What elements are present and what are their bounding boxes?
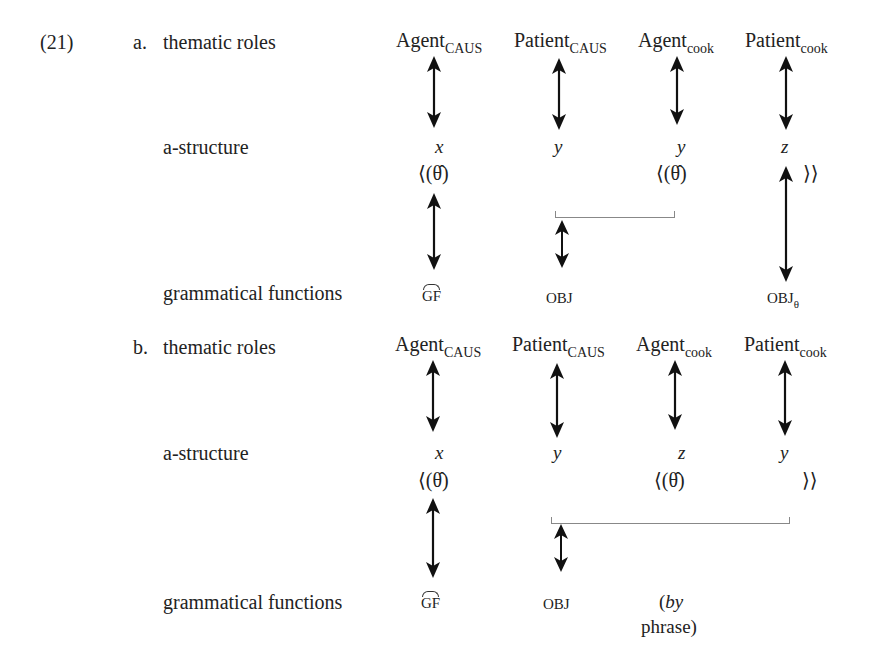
part-b-var-4: y [780, 443, 788, 462]
part-b-letter: b. [133, 337, 148, 357]
part-b-role-patient-caus: PatientCAUS [512, 334, 605, 360]
double-arrow-icon [775, 360, 795, 436]
part-a-var-3: y [677, 137, 685, 156]
double-arrow-icon [552, 524, 570, 572]
part-a-obj-theta: OBJθ [767, 291, 799, 310]
part-a-linking-bracket [555, 211, 675, 218]
part-a-theta-close: ⟩⟩ [803, 163, 819, 183]
part-b-theta-open-1: ⟨(θ̂) [418, 470, 449, 490]
double-arrow-icon [423, 360, 443, 432]
part-a-theta-open-2: ⟨(θ̂) [656, 163, 687, 183]
part-a-role-agent-caus: AgentCAUS [396, 30, 482, 56]
part-b-by-phrase-line-1: (by [659, 592, 683, 611]
part-b-linking-bracket [551, 517, 790, 524]
part-b-obj: OBJ [543, 597, 570, 612]
part-b-label-thematic-roles: thematic roles [163, 337, 276, 357]
double-arrow-icon [667, 56, 687, 125]
example-number: (21) [40, 32, 73, 52]
part-a-letter: a. [133, 32, 147, 52]
double-arrow-icon [549, 58, 569, 130]
part-b-theta-open-2: ⟨(θ̂) [654, 470, 685, 490]
part-a-var-2: y [554, 137, 562, 156]
double-arrow-icon [665, 360, 685, 430]
double-arrow-icon [423, 498, 443, 578]
double-arrow-icon [424, 56, 444, 128]
part-b-role-patient-cook: Patientcook [744, 334, 827, 360]
part-a-var-4: z [781, 137, 788, 156]
part-a-role-agent-cook: Agentcook [638, 30, 714, 56]
double-arrow-icon [553, 220, 571, 268]
part-b-role-agent-cook: Agentcook [636, 334, 712, 360]
part-a-obj: OBJ [546, 291, 573, 306]
part-b-role-agent-caus: AgentCAUS [395, 334, 481, 360]
part-a-label-grammatical-functions: grammatical functions [163, 283, 342, 303]
part-a-role-patient-caus: PatientCAUS [514, 30, 607, 56]
double-arrow-icon [776, 166, 796, 282]
part-a-gf-hat: GF [422, 289, 441, 304]
part-b-gf-hat: GF [421, 596, 440, 611]
part-b-var-1: x [435, 443, 443, 462]
part-b-by-phrase-line-2: phrase) [641, 617, 697, 636]
part-b-theta-close: ⟩⟩ [802, 470, 818, 490]
part-a-label-a-structure: a-structure [163, 137, 249, 157]
double-arrow-icon [547, 363, 567, 438]
double-arrow-icon [776, 56, 796, 130]
part-a-var-1: x [435, 137, 443, 156]
part-b-var-3: z [678, 443, 685, 462]
part-a-theta-open-1: ⟨(θ̂) [418, 163, 449, 183]
part-b-var-2: y [553, 443, 561, 462]
part-b-label-a-structure: a-structure [163, 443, 249, 463]
part-a-label-thematic-roles: thematic roles [163, 32, 276, 52]
part-b-label-grammatical-functions: grammatical functions [163, 592, 342, 612]
part-a-role-patient-cook: Patientcook [745, 30, 828, 56]
double-arrow-icon [424, 193, 444, 270]
